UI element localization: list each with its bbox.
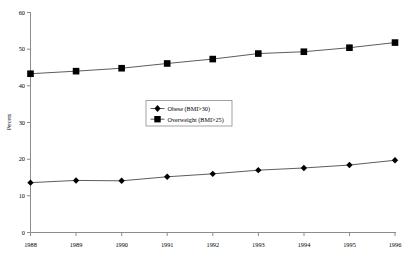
x-tick-label: 1992 [207, 241, 220, 248]
square-marker-icon [346, 44, 353, 51]
y-tick-label: 60 [19, 9, 25, 16]
y-tick-label: 0 [22, 229, 25, 236]
square-marker-icon [392, 39, 399, 46]
x-tick-label: 1993 [252, 241, 265, 248]
line-chart: 60 50 40 30 20 10 0 Percent 1988 1989 19… [0, 0, 410, 259]
square-marker-icon [118, 65, 125, 72]
square-marker-icon [164, 60, 171, 67]
square-marker-icon [301, 48, 308, 55]
legend-label-overweight: Overweight (BMI>25) [168, 116, 224, 124]
y-tick-label: 30 [19, 119, 25, 126]
y-tick-label: 10 [19, 192, 25, 199]
square-marker-icon [154, 116, 160, 122]
chart-legend: Obese (BMI>30) Overweight (BMI>25) [146, 101, 232, 127]
y-tick-label: 50 [19, 45, 25, 52]
x-tick-label: 1991 [161, 241, 174, 248]
square-marker-icon [255, 50, 262, 57]
legend-label-obese: Obese (BMI>30) [168, 105, 211, 113]
x-tick-label: 1988 [24, 241, 37, 248]
y-tick-label: 40 [19, 82, 25, 89]
x-tick-label: 1996 [389, 241, 402, 248]
y-axis-title: Percent [6, 113, 12, 130]
x-tick-label: 1990 [115, 241, 128, 248]
chart-background [0, 0, 410, 259]
square-marker-icon [73, 68, 80, 75]
square-marker-icon [27, 70, 34, 77]
x-axis-tick-labels: 1988 1989 1990 1991 1992 1993 1994 1995 … [24, 241, 401, 248]
x-tick-label: 1994 [298, 241, 311, 248]
chart-container: 60 50 40 30 20 10 0 Percent 1988 1989 19… [0, 0, 410, 259]
y-tick-label: 20 [19, 155, 25, 162]
square-marker-icon [209, 56, 216, 63]
x-tick-label: 1995 [343, 241, 356, 248]
x-tick-label: 1989 [70, 241, 83, 248]
